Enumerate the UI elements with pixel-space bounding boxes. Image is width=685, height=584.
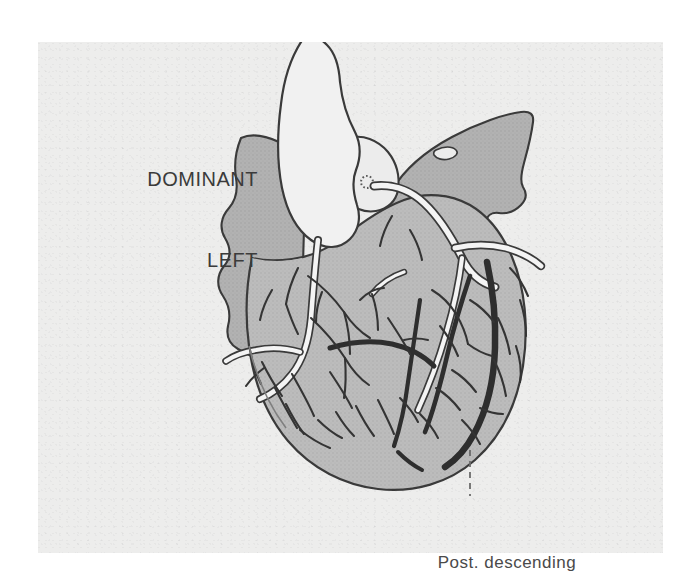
av-groove-shading bbox=[250, 258, 306, 300]
caption-line1: Post. descending bbox=[392, 550, 622, 575]
dominant-left-line2: LEFT bbox=[108, 247, 258, 274]
atrial-appendage-notch bbox=[434, 147, 458, 160]
dominant-left-line1: DOMINANT bbox=[108, 166, 258, 193]
heart-illustration bbox=[0, 0, 685, 584]
pulmonary-artery-shape bbox=[278, 36, 360, 247]
figure-root: DOMINANT LEFT Post. descending from circ… bbox=[0, 0, 685, 584]
posterior-descending-caption: Post. descending from circumflex bbox=[392, 500, 622, 584]
dominant-left-label: DOMINANT LEFT bbox=[108, 112, 258, 328]
